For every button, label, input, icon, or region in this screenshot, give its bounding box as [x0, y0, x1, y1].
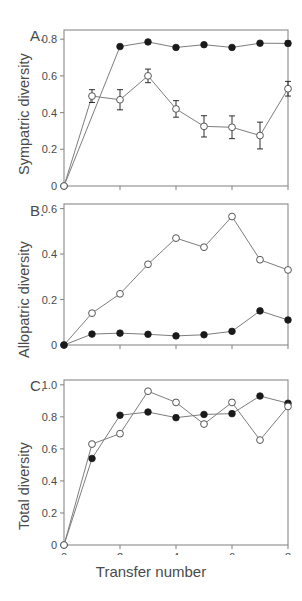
data-point-open-circle — [61, 183, 68, 190]
x-tick-label: 6 — [229, 551, 235, 555]
panel-c: C. Total diversity 00.20.40.60.81.002468 — [0, 370, 302, 555]
y-tick-label: 0.4 — [42, 107, 57, 119]
y-tick-label: 0.6 — [42, 443, 57, 455]
data-point-filled-circle — [257, 308, 264, 315]
data-point-open-circle — [89, 310, 96, 317]
y-tick-label: 0.4 — [42, 475, 57, 487]
data-point-open-circle — [145, 388, 152, 395]
data-point-filled-circle — [229, 410, 236, 417]
x-tick-label: 4 — [173, 551, 179, 555]
data-point-open-circle — [257, 437, 264, 444]
data-point-open-circle — [61, 542, 68, 549]
data-point-open-circle — [229, 213, 236, 220]
data-point-filled-circle — [229, 328, 236, 335]
x-axis-title: Transfer number — [0, 563, 302, 580]
data-point-filled-circle — [145, 409, 152, 416]
data-point-open-circle — [117, 290, 124, 297]
data-point-open-circle — [285, 267, 292, 274]
data-point-open-circle — [201, 421, 208, 428]
data-point-filled-circle — [285, 40, 292, 47]
data-point-open-circle — [257, 132, 264, 139]
data-point-filled-circle — [117, 412, 124, 419]
data-point-open-circle — [89, 441, 96, 448]
series-line-filled-circles — [64, 311, 288, 345]
data-point-filled-circle — [173, 44, 180, 51]
panel-a-plot: 00.20.40.60.8 — [0, 0, 302, 190]
data-point-filled-circle — [229, 44, 236, 51]
data-point-filled-circle — [285, 317, 292, 324]
data-point-filled-circle — [145, 39, 152, 46]
panel-b: B. Allopatric diversity 00.20.40.6 — [0, 190, 302, 370]
data-point-filled-circle — [89, 331, 96, 338]
data-point-open-circle — [285, 403, 292, 410]
data-point-filled-circle — [257, 40, 264, 47]
data-point-filled-circle — [201, 331, 208, 338]
data-point-filled-circle — [173, 414, 180, 421]
y-tick-label: 0.2 — [42, 507, 57, 519]
y-tick-label: 0.4 — [42, 248, 57, 260]
data-point-filled-circle — [117, 43, 124, 50]
data-point-open-circle — [145, 261, 152, 268]
series-line-open-circles — [64, 76, 288, 186]
y-tick-label: 0.2 — [42, 143, 57, 155]
data-point-filled-circle — [117, 330, 124, 337]
data-point-open-circle — [117, 96, 124, 103]
plot-frame — [64, 204, 288, 345]
panel-c-plot: 00.20.40.60.81.002468 — [0, 370, 302, 555]
y-tick-label: 0.2 — [42, 294, 57, 306]
data-point-open-circle — [89, 93, 96, 100]
data-point-filled-circle — [257, 393, 264, 400]
x-tick-label: 8 — [285, 551, 291, 555]
y-tick-label: 0.6 — [42, 70, 57, 82]
panel-b-label: B. — [30, 202, 44, 219]
y-tick-label: 0 — [51, 539, 57, 551]
data-point-open-circle — [257, 256, 264, 263]
data-point-filled-circle — [145, 331, 152, 338]
panel-c-label: C. — [30, 377, 45, 394]
y-tick-label: 0.8 — [42, 411, 57, 423]
data-point-filled-circle — [201, 411, 208, 418]
figure-caption-partial — [0, 592, 302, 601]
data-point-open-circle — [145, 72, 152, 79]
data-point-open-circle — [117, 430, 124, 437]
data-point-open-circle — [173, 106, 180, 113]
data-point-open-circle — [229, 399, 236, 406]
panel-a: A. Sympatric diversity 00.20.40.60.8 — [0, 0, 302, 190]
data-point-open-circle — [229, 124, 236, 131]
data-point-open-circle — [285, 85, 292, 92]
data-point-open-circle — [173, 399, 180, 406]
data-point-open-circle — [201, 244, 208, 251]
x-tick-label: 2 — [117, 551, 123, 555]
data-point-filled-circle — [61, 342, 68, 349]
data-point-filled-circle — [201, 41, 208, 48]
figure-root: A. Sympatric diversity 00.20.40.60.8 B. … — [0, 0, 302, 601]
panel-a-label: A. — [30, 27, 44, 44]
panel-c-ylabel: Total diversity — [16, 442, 32, 530]
panel-b-plot: 00.20.40.6 — [0, 190, 302, 370]
x-tick-label: 0 — [61, 551, 67, 555]
data-point-open-circle — [173, 235, 180, 242]
panel-a-ylabel: Sympatric diversity — [16, 53, 32, 175]
panel-b-ylabel: Allopatric diversity — [16, 241, 32, 358]
y-tick-label: 0 — [51, 339, 57, 351]
y-tick-label: 0 — [51, 180, 57, 190]
data-point-filled-circle — [173, 333, 180, 340]
data-point-filled-circle — [89, 455, 96, 462]
data-point-open-circle — [201, 123, 208, 130]
